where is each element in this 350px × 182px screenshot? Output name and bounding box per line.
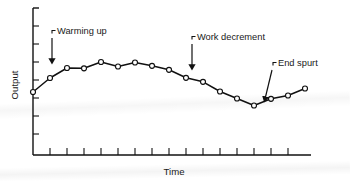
data-point (218, 89, 223, 94)
data-point (269, 96, 274, 101)
warming-up-label: Warming up (57, 26, 107, 36)
data-point (303, 86, 308, 91)
data-point (99, 60, 104, 65)
end-spurt-label: End spurt (278, 58, 318, 68)
data-point (286, 93, 291, 98)
end-spurt-leader-line (273, 63, 277, 66)
annotation-warming-up: Warming up (52, 26, 107, 61)
data-point (150, 63, 155, 68)
data-point (252, 103, 257, 108)
data-point (167, 67, 172, 72)
data-point (133, 60, 138, 65)
end-spurt-arrow (265, 70, 272, 99)
y-axis-ticks (33, 26, 39, 134)
annotation-end-spurt: End spurt (265, 58, 318, 99)
data-point (31, 90, 36, 95)
data-point (235, 96, 240, 101)
annotation-work-decrement: Work decrement (192, 32, 265, 67)
x-axis-ticks (50, 148, 288, 155)
work-decrement-label: Work decrement (197, 32, 265, 42)
data-point (201, 79, 206, 84)
data-point (82, 66, 87, 71)
warming-up-leader-line (52, 31, 56, 34)
data-point (116, 64, 121, 69)
y-axis-title: Output (9, 70, 20, 99)
data-point (48, 76, 53, 81)
data-point (184, 75, 189, 80)
work-decrement-leader-line (192, 37, 196, 40)
x-axis-title: Time (164, 166, 185, 177)
data-point (65, 66, 70, 71)
